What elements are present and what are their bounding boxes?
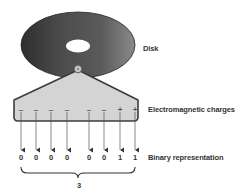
disk-label: Disk bbox=[143, 44, 158, 53]
bit-1: 0 bbox=[19, 153, 23, 162]
brace bbox=[21, 167, 135, 178]
charges-label: Electromagnetic charges bbox=[148, 105, 235, 114]
binary-label: Binary representation bbox=[148, 153, 223, 162]
charge-3: – bbox=[49, 106, 53, 114]
disk-hole bbox=[66, 40, 90, 53]
charge-5: – bbox=[87, 106, 91, 114]
bit-5: 0 bbox=[87, 153, 91, 162]
bit-2: 0 bbox=[34, 153, 38, 162]
bit-7: 1 bbox=[118, 153, 122, 162]
brace-value: 3 bbox=[77, 181, 81, 190]
bit-3: 0 bbox=[49, 153, 53, 162]
bit-4: 0 bbox=[65, 153, 69, 162]
bit-8: 1 bbox=[133, 153, 137, 162]
charge-4: – bbox=[65, 106, 69, 114]
charge-7: + bbox=[118, 106, 123, 114]
charge-8: + bbox=[133, 106, 138, 114]
charge-2: – bbox=[34, 106, 38, 114]
diagram-canvas bbox=[0, 0, 242, 196]
charge-1: – bbox=[19, 106, 23, 114]
charge-6: – bbox=[102, 106, 106, 114]
bit-6: 0 bbox=[102, 153, 106, 162]
